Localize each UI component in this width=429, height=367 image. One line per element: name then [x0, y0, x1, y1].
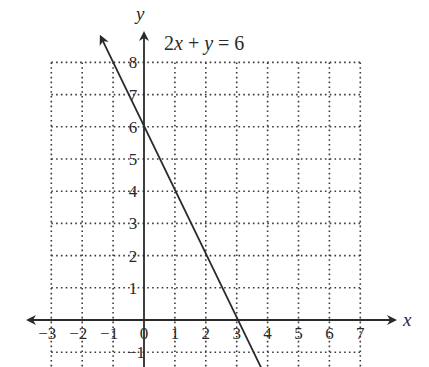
x-tick-label: 1: [171, 324, 180, 343]
y-tick-label: 5: [129, 150, 138, 169]
x-tick-label: 6: [325, 324, 334, 343]
x-tick-label: 2: [202, 324, 211, 343]
y-tick-label: −1: [127, 343, 145, 362]
y-tick-labels: 87654321−1: [127, 53, 145, 362]
y-tick-label: 4: [129, 182, 138, 201]
y-tick-label: 1: [129, 279, 138, 298]
x-tick-label: −3: [38, 324, 56, 343]
x-tick-label: 3: [232, 324, 241, 343]
x-tick-labels: −3−2−101234567: [38, 324, 365, 343]
x-tick-label: 5: [294, 324, 303, 343]
x-tick-label: −1: [100, 324, 118, 343]
dotted-grid: [51, 62, 360, 367]
y-tick-label: 6: [129, 118, 138, 137]
y-tick-label: 2: [129, 247, 138, 266]
equation-label: 2x + y = 6: [164, 32, 244, 55]
y-tick-label: 3: [129, 214, 138, 233]
coordinate-plane: −3−2−101234567 87654321−1 x y 2x + y = 6: [0, 0, 429, 367]
y-axis-label: y: [134, 3, 145, 24]
x-tick-label: 7: [356, 324, 365, 343]
x-tick-label: 4: [263, 324, 272, 343]
y-tick-label: 8: [129, 53, 138, 72]
x-tick-label: −2: [69, 324, 87, 343]
x-axis-label: x: [402, 309, 412, 330]
